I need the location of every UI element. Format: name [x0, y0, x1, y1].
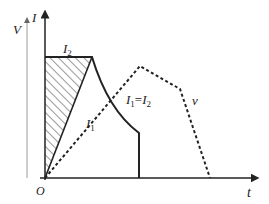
i2-label: I2 [62, 41, 72, 58]
v-axis-label: V [13, 22, 23, 37]
diagram-svg: V I t O I2 I1 I1=I2 v [0, 0, 269, 204]
diagram-canvas: V I t O I2 I1 I1=I2 v [0, 0, 269, 204]
i1-label: I1 [85, 116, 95, 133]
origin-label: O [36, 184, 45, 198]
i1-equals-i2-label: I1=I2 [125, 92, 151, 109]
v-curve-label: v [192, 93, 198, 108]
i-axis-label: I [31, 10, 37, 25]
t-axis-label: t [247, 185, 252, 200]
